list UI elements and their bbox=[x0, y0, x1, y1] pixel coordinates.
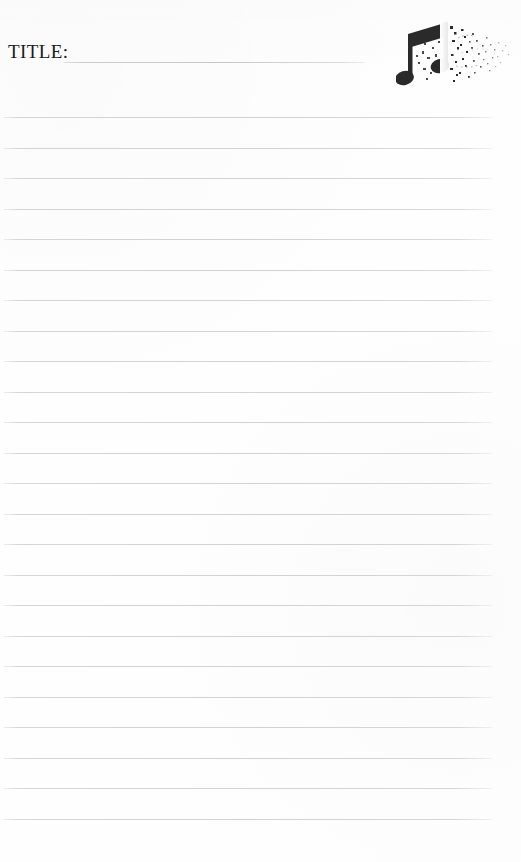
ruled-line[interactable] bbox=[4, 727, 492, 728]
ruled-line[interactable] bbox=[4, 453, 492, 454]
ruled-line[interactable] bbox=[4, 209, 492, 210]
ruled-line[interactable] bbox=[4, 148, 492, 149]
ruled-line[interactable] bbox=[4, 300, 492, 301]
ruled-line[interactable] bbox=[4, 758, 492, 759]
ruled-lines-area bbox=[0, 0, 521, 862]
ruled-line[interactable] bbox=[4, 270, 492, 271]
ruled-line[interactable] bbox=[4, 697, 492, 698]
ruled-line[interactable] bbox=[4, 666, 492, 667]
ruled-line[interactable] bbox=[4, 178, 492, 179]
ruled-line[interactable] bbox=[4, 117, 492, 118]
ruled-line[interactable] bbox=[4, 819, 492, 820]
ruled-line[interactable] bbox=[4, 331, 492, 332]
ruled-line[interactable] bbox=[4, 544, 492, 545]
ruled-line[interactable] bbox=[4, 483, 492, 484]
ruled-line[interactable] bbox=[4, 361, 492, 362]
ruled-line[interactable] bbox=[4, 636, 492, 637]
ruled-line[interactable] bbox=[4, 514, 492, 515]
song-title-sheet-page: TITLE: bbox=[0, 0, 521, 862]
ruled-line[interactable] bbox=[4, 422, 492, 423]
ruled-line[interactable] bbox=[4, 605, 492, 606]
ruled-line[interactable] bbox=[4, 392, 492, 393]
ruled-line[interactable] bbox=[4, 239, 492, 240]
ruled-line[interactable] bbox=[4, 788, 492, 789]
ruled-line[interactable] bbox=[4, 575, 492, 576]
